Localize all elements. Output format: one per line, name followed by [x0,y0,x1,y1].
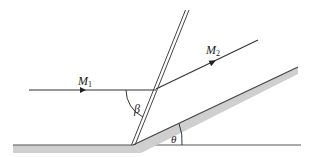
theta-label: θ [171,133,177,145]
oblique-shock-diagram: M1 M2 β θ [0,0,317,157]
downstream-mach-label: M2 [205,43,220,58]
upstream-mach-label: M1 [77,74,92,89]
floor-surface [13,145,141,153]
beta-label: β [133,102,140,116]
